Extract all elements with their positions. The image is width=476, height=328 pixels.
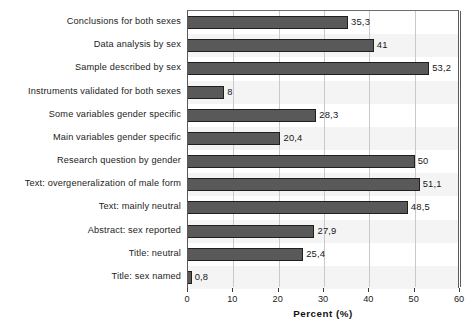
x-axis-tick-label: 30 bbox=[318, 294, 328, 305]
category-label: Data analysis by sex bbox=[94, 39, 181, 49]
bar-value-label: 50 bbox=[418, 154, 429, 168]
bar[interactable] bbox=[188, 248, 303, 261]
bar-row: 0,8 bbox=[188, 271, 460, 284]
bar-value-label: 25,4 bbox=[306, 247, 325, 261]
x-axis-tick-label: 50 bbox=[409, 294, 419, 305]
bar[interactable] bbox=[188, 62, 429, 75]
bar-value-label: 0,8 bbox=[195, 270, 209, 284]
category-label: Sample described by sex bbox=[75, 62, 181, 72]
category-label: Main variables gender specific bbox=[53, 132, 181, 142]
x-axis-tick bbox=[368, 288, 369, 292]
bar[interactable] bbox=[188, 132, 280, 145]
category-axis-labels: Conclusions for both sexesData analysis … bbox=[0, 10, 184, 288]
bar-value-label: 8 bbox=[227, 85, 232, 99]
bar-value-label: 41 bbox=[377, 38, 388, 52]
gridline bbox=[324, 11, 325, 287]
x-axis-tick-label: 0 bbox=[184, 294, 189, 305]
bar-value-label: 28,3 bbox=[319, 108, 338, 122]
bar-value-label: 48,5 bbox=[411, 200, 430, 214]
x-axis: 0102030405060 Percent (%) bbox=[187, 288, 459, 328]
bar-value-label: 27,9 bbox=[317, 224, 336, 238]
bar-row: 53,2 bbox=[188, 62, 460, 75]
bar-row: 48,5 bbox=[188, 201, 460, 214]
plot-area: 35,34153,2828,320,45051,148,527,925,40,8 bbox=[187, 10, 459, 288]
category-label: Some variables gender specific bbox=[49, 109, 181, 119]
bar[interactable] bbox=[188, 178, 420, 191]
x-axis-tick bbox=[323, 288, 324, 292]
category-label: Title: sex named bbox=[112, 271, 181, 281]
bar-row: 8 bbox=[188, 86, 460, 99]
bar-value-label: 20,4 bbox=[283, 131, 302, 145]
x-axis-title: Percent (%) bbox=[187, 308, 459, 319]
bar[interactable] bbox=[188, 109, 316, 122]
bar-row: 50 bbox=[188, 155, 460, 168]
x-axis-tick-label: 40 bbox=[363, 294, 373, 305]
bar[interactable] bbox=[188, 225, 314, 238]
bar-value-label: 35,3 bbox=[351, 15, 370, 29]
x-axis-tick bbox=[187, 288, 188, 292]
x-axis-tick-label: 20 bbox=[273, 294, 283, 305]
x-axis-tick bbox=[414, 288, 415, 292]
bar[interactable] bbox=[188, 86, 224, 99]
gridline bbox=[233, 11, 234, 287]
category-label: Title: neutral bbox=[129, 248, 181, 258]
category-label: Conclusions for both sexes bbox=[67, 16, 181, 26]
gridline bbox=[460, 11, 461, 287]
horizontal-bar-chart: Conclusions for both sexesData analysis … bbox=[0, 0, 476, 328]
x-axis-tick bbox=[459, 288, 460, 292]
bar-row: 27,9 bbox=[188, 225, 460, 238]
category-label: Instruments validated for both sexes bbox=[28, 86, 181, 96]
bar-row: 51,1 bbox=[188, 178, 460, 191]
bar[interactable] bbox=[188, 155, 415, 168]
bar-row: 35,3 bbox=[188, 16, 460, 29]
bar-row: 28,3 bbox=[188, 109, 460, 122]
x-axis-tick bbox=[232, 288, 233, 292]
bar-value-label: 51,1 bbox=[423, 177, 442, 191]
gridline bbox=[279, 11, 280, 287]
category-label: Abstract: sex reported bbox=[88, 225, 181, 235]
bar-row: 25,4 bbox=[188, 248, 460, 261]
category-label: Text: mainly neutral bbox=[99, 201, 181, 211]
bar[interactable] bbox=[188, 201, 408, 214]
gridline bbox=[415, 11, 416, 287]
x-axis-tick bbox=[278, 288, 279, 292]
bar[interactable] bbox=[188, 16, 348, 29]
x-axis-tick-label: 60 bbox=[454, 294, 464, 305]
bar-row: 41 bbox=[188, 39, 460, 52]
category-label: Research question by gender bbox=[57, 155, 181, 165]
bar-row: 20,4 bbox=[188, 132, 460, 145]
bar[interactable] bbox=[188, 39, 374, 52]
x-axis-tick-label: 10 bbox=[227, 294, 237, 305]
bar[interactable] bbox=[188, 271, 192, 284]
gridline bbox=[369, 11, 370, 287]
category-label: Text: overgeneralization of male form bbox=[25, 178, 181, 188]
bar-value-label: 53,2 bbox=[432, 61, 451, 75]
